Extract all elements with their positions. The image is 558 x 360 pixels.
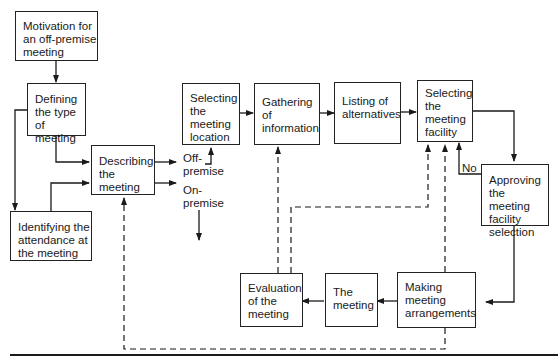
node-selecting-facility: Selecting the meeting facility	[417, 80, 473, 142]
node-label: Describing the meeting	[99, 155, 153, 193]
node-gathering: Gathering of information	[254, 83, 320, 145]
node-label: Selecting the meeting facility	[425, 87, 472, 138]
node-label: Selecting the meeting location	[190, 92, 237, 143]
node-motivation: Motivation for an off-premise meeting	[15, 11, 98, 61]
node-approving: Approving the meeting facility selection	[481, 164, 549, 226]
node-label: Motivation for an off-premise meeting	[23, 20, 96, 58]
label-on-premise: On-premise	[183, 184, 227, 210]
node-making: Making meeting arrangements	[397, 272, 476, 328]
node-describing: Describing the meeting	[91, 145, 155, 195]
node-label: Gathering of information	[262, 96, 319, 134]
node-label: Identifying the attendance at the meetin…	[18, 221, 90, 259]
node-label: The meeting	[333, 286, 374, 311]
label-off-premise: Off-premise	[183, 152, 227, 178]
node-label: Evaluation of the meeting	[248, 282, 302, 320]
node-label: Listing of alternatives	[342, 95, 401, 120]
node-selecting-location: Selecting the meeting location	[182, 83, 240, 145]
node-the-meeting: The meeting	[325, 273, 378, 327]
node-identifying: Identifying the attendance at the meetin…	[10, 211, 92, 261]
node-label: Making meeting arrangements	[405, 281, 476, 319]
node-listing: Listing of alternatives	[334, 82, 401, 144]
node-label: Approving the meeting facility selection	[489, 174, 541, 238]
node-defining: Defining the type of meeting	[27, 83, 86, 136]
label-no: No	[462, 162, 477, 175]
node-label: Defining the type of meeting	[35, 93, 77, 144]
node-evaluation: Evaluation of the meeting	[240, 273, 303, 327]
